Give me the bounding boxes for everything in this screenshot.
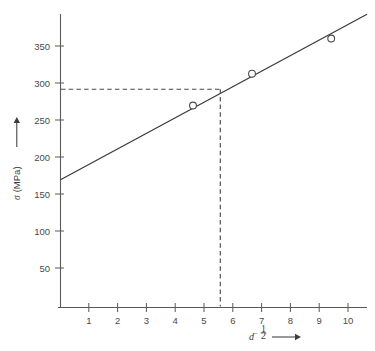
y-tick-label-50: 50 [39,263,50,274]
y-tick-label-100: 100 [34,226,50,237]
y-tick-label-150: 150 [34,189,50,200]
x-tick-label-2: 2 [115,315,120,326]
y-axis-symbol: σ [12,195,22,200]
y-tick-label-250: 250 [34,115,50,126]
x-axis-exponent-denominator: 2 [261,330,266,341]
y-tick-label-200: 200 [34,152,50,163]
x-tick-label-8: 8 [288,315,293,326]
x-axis-exponent-fraction: 1 2 [261,323,267,341]
data-point-2 [249,70,256,77]
hall-petch-plot: 50 100 150 200 250 300 350 1 2 3 4 5 [0,0,375,351]
x-tick-label-5: 5 [201,315,206,326]
y-tick-label-300: 300 [34,78,50,89]
x-tick-label-1: 1 [86,315,91,326]
chart-background [0,0,375,351]
data-point-3 [328,35,335,42]
x-tick-label-10: 10 [343,315,354,326]
x-tick-label-3: 3 [144,315,149,326]
x-tick-label-6: 6 [230,315,235,326]
chart-container: 50 100 150 200 250 300 350 1 2 3 4 5 [0,0,375,351]
y-tick-label-350: 350 [34,41,50,52]
x-tick-label-9: 9 [317,315,322,326]
x-tick-label-4: 4 [173,315,178,326]
y-axis-unit: (MPa) [11,166,22,192]
data-point-1 [190,102,197,109]
x-axis-exponent-sign: − [254,330,258,338]
